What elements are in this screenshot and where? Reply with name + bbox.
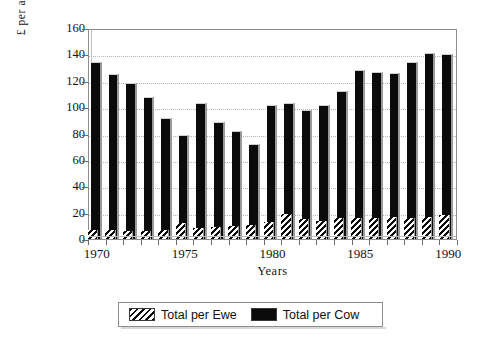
bar-total-per-cow <box>109 74 120 239</box>
x-axis-tick-mark <box>422 240 423 245</box>
chart-legend: Total per Ewe Total per Cow <box>118 302 383 327</box>
x-axis-tick-mark <box>299 240 300 245</box>
bar-total-per-ewe <box>387 217 398 239</box>
x-axis-tick-mark <box>457 240 458 245</box>
bar-total-per-ewe <box>193 228 204 239</box>
bar-total-per-cow <box>161 118 172 239</box>
bar-total-per-ewe <box>281 214 292 239</box>
x-axis-tick-mark <box>176 240 177 245</box>
bar-total-per-ewe <box>369 218 380 239</box>
legend-label-ewe: Total per Ewe <box>161 308 237 322</box>
bar-total-per-ewe <box>228 226 239 239</box>
x-axis-tick-mark <box>316 240 317 245</box>
plot-area <box>88 29 457 240</box>
x-axis-tick-mark <box>141 240 142 245</box>
bar-total-per-cow <box>214 122 225 239</box>
bar-total-per-ewe <box>105 230 116 239</box>
x-axis-tick-label: 1970 <box>67 246 127 262</box>
x-axis-tick-label: 1985 <box>330 246 390 262</box>
bar-total-per-cow <box>390 73 401 239</box>
bar-total-per-cow <box>196 103 207 239</box>
x-axis-tick-mark <box>334 240 335 245</box>
y-axis-title: £ per animal <box>15 0 33 83</box>
bar-total-per-ewe <box>299 219 310 239</box>
bar-total-per-ewe <box>422 217 433 239</box>
x-axis-tick-mark <box>193 240 194 245</box>
x-axis-tick-mark <box>246 240 247 245</box>
bar-total-per-ewe <box>334 218 345 239</box>
bar-total-per-cow <box>355 70 366 239</box>
bar-total-per-cow <box>144 97 155 239</box>
legend-swatch-hatch-icon <box>129 308 155 321</box>
bar-total-per-cow <box>372 72 383 239</box>
y-axis-tick-label: 120 <box>39 74 85 89</box>
bar-total-per-ewe <box>176 223 187 239</box>
x-axis-tick-mark <box>123 240 124 245</box>
legend-item-ewe: Total per Ewe <box>129 308 237 322</box>
x-axis-tick-mark <box>387 240 388 245</box>
y-axis-tick-label: 80 <box>39 127 85 142</box>
bar-total-per-cow <box>442 54 453 239</box>
x-axis-title: Years <box>88 264 457 279</box>
bar-total-per-cow <box>319 105 330 240</box>
x-axis-tick-mark <box>404 240 405 245</box>
y-axis-tick-label: 160 <box>39 21 85 36</box>
bar-total-per-ewe <box>211 227 222 239</box>
bar-total-per-ewe <box>351 218 362 239</box>
x-axis-tick-mark <box>229 240 230 245</box>
x-axis-tick-label: 1975 <box>155 246 215 262</box>
chart-figure: £ per animal 020406080100120140160 19701… <box>0 0 500 348</box>
gridline <box>89 56 456 57</box>
legend-swatch-solid-icon <box>251 308 277 321</box>
bar-total-per-cow <box>407 62 418 239</box>
y-axis-tick-label: 20 <box>39 206 85 221</box>
x-axis-tick-label: 1980 <box>243 246 303 262</box>
legend-item-cow: Total per Cow <box>251 308 359 322</box>
bar-total-per-cow <box>91 62 102 239</box>
bar-total-per-cow <box>267 105 278 240</box>
y-axis-tick-label: 60 <box>39 153 85 168</box>
y-axis-tick-label: 40 <box>39 179 85 194</box>
bar-total-per-cow <box>337 91 348 239</box>
bar-total-per-ewe <box>316 221 327 239</box>
bar-total-per-cow <box>425 53 436 239</box>
x-axis-tick-mark <box>211 240 212 245</box>
x-axis-tick-mark <box>106 240 107 245</box>
bar-total-per-ewe <box>88 230 99 239</box>
x-axis-tick-mark <box>281 240 282 245</box>
x-axis-tick-mark <box>158 240 159 245</box>
y-axis-tick-label: 140 <box>39 47 85 62</box>
x-axis-tick-mark <box>439 240 440 245</box>
bar-total-per-cow <box>126 83 137 239</box>
bar-total-per-ewe <box>264 222 275 239</box>
x-axis-tick-mark <box>88 240 89 245</box>
y-axis-tick-label: 0 <box>39 232 85 247</box>
bar-total-per-ewe <box>404 218 415 239</box>
bar-total-per-ewe <box>141 231 152 239</box>
x-axis-tick-mark <box>264 240 265 245</box>
gridline <box>89 83 456 84</box>
bar-total-per-ewe <box>439 215 450 239</box>
x-axis-tick-mark <box>352 240 353 245</box>
bar-total-per-ewe <box>246 225 257 240</box>
bar-total-per-ewe <box>123 231 134 239</box>
x-axis-tick-mark <box>369 240 370 245</box>
legend-label-cow: Total per Cow <box>283 308 359 322</box>
bar-total-per-cow <box>232 131 243 239</box>
y-axis-tick-label: 100 <box>39 100 85 115</box>
x-axis-tick-label: 1990 <box>418 246 478 262</box>
bar-total-per-ewe <box>158 230 169 239</box>
